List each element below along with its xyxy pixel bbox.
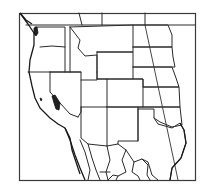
sierra-lake-feature [52,95,60,110]
map-container [0,0,202,190]
puget-sound [34,27,38,36]
gulf-coast [170,123,186,180]
western-us-map [0,0,202,190]
state-boundaries [26,13,195,180]
meridian-line [145,25,178,180]
bay-feature [40,98,42,101]
